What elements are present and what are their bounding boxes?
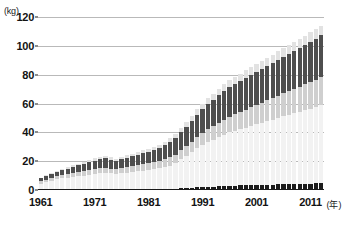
bar-segment-series-2-2004 xyxy=(271,120,275,185)
bar-segment-series-3-2011 xyxy=(308,82,312,109)
bar-segment-series-2-1984 xyxy=(163,167,167,190)
bar-segment-series-2-2009 xyxy=(298,112,302,184)
bar-1971 xyxy=(93,158,97,190)
bar-1994 xyxy=(217,89,221,190)
bar-segment-series-4-1989 xyxy=(190,121,194,142)
bar-segment-series-4-1984 xyxy=(163,145,167,159)
bar-segment-series-3-1986 xyxy=(173,155,177,164)
bar-segment-series-4-1970 xyxy=(87,162,91,170)
y-axis-unit-label: (kg) xyxy=(4,6,19,16)
bar-segment-series-2-2002 xyxy=(260,123,264,185)
bar-1989 xyxy=(190,116,194,190)
bar-segment-series-4-1999 xyxy=(244,78,248,110)
bar-1993 xyxy=(211,94,215,190)
bar-segment-series-4-1987 xyxy=(179,132,183,150)
bar-segment-series-4-1976 xyxy=(119,159,123,168)
x-axis-unit-label: (年) xyxy=(327,198,342,211)
bar-segment-series-2-2007 xyxy=(287,115,291,184)
bar-segment-series-2-1997 xyxy=(233,131,237,186)
bar-segment-series-3-1992 xyxy=(206,129,210,142)
bar-segment-series-2-1980 xyxy=(141,171,145,190)
bar-segment-series-5-2000 xyxy=(249,67,253,75)
stacked-bar-chart: (kg) 020406080100120 1961197119811991200… xyxy=(0,0,344,226)
x-tick-label-2001: 2001 xyxy=(245,196,268,208)
bar-segment-series-4-1982 xyxy=(152,150,156,162)
bar-1987 xyxy=(179,128,183,190)
bar-segment-series-3-2003 xyxy=(265,100,269,121)
bar-segment-series-2-1996 xyxy=(227,132,231,185)
bar-segment-series-3-2013 xyxy=(319,77,323,105)
bar-1972 xyxy=(98,157,102,190)
bar-segment-series-2-2005 xyxy=(276,118,280,184)
bar-segment-series-4-1991 xyxy=(200,109,204,133)
bar-segment-series-2-1973 xyxy=(103,173,107,190)
bar-1970 xyxy=(87,160,91,190)
x-tick-label-1981: 1981 xyxy=(137,196,160,208)
bar-segment-series-2-1993 xyxy=(211,140,215,187)
bar-segment-series-3-1999 xyxy=(244,110,248,128)
bar-segment-series-5-2002 xyxy=(260,61,264,69)
bar-2005 xyxy=(276,51,280,190)
bar-segment-series-5-2007 xyxy=(287,45,291,54)
bars-layer xyxy=(38,17,324,190)
bar-segment-series-3-1995 xyxy=(222,120,226,135)
bar-segment-series-4-2012 xyxy=(314,39,318,80)
bar-segment-series-3-1982 xyxy=(152,162,156,169)
bar-1978 xyxy=(130,154,134,190)
bar-1974 xyxy=(109,157,113,190)
bar-segment-series-4-2003 xyxy=(265,66,269,101)
bar-segment-series-2-1989 xyxy=(190,152,194,187)
bar-segment-series-4-1969 xyxy=(82,164,86,171)
bar-segment-series-2-1992 xyxy=(206,142,210,187)
bar-segment-series-4-1975 xyxy=(114,161,118,170)
bar-segment-series-4-1977 xyxy=(125,158,129,168)
bar-segment-series-5-2001 xyxy=(254,64,258,72)
bar-2012 xyxy=(314,29,318,190)
bar-segment-series-4-1983 xyxy=(157,148,161,161)
bar-segment-series-5-1999 xyxy=(244,70,248,77)
bar-1963 xyxy=(49,173,53,190)
x-tick-label-1961: 1961 xyxy=(29,196,52,208)
plot-area xyxy=(38,17,324,190)
bar-segment-series-3-2005 xyxy=(276,96,280,118)
bar-segment-series-5-2011 xyxy=(308,32,312,41)
bar-1983 xyxy=(157,145,161,190)
bar-1985 xyxy=(168,138,172,190)
bar-1991 xyxy=(200,104,204,190)
bar-segment-series-5-2003 xyxy=(265,58,269,66)
bar-2000 xyxy=(249,67,253,190)
bar-segment-series-3-1990 xyxy=(195,137,199,149)
bar-segment-series-3-2001 xyxy=(254,105,258,124)
bar-segment-series-2-1985 xyxy=(168,166,172,191)
bar-segment-series-4-2001 xyxy=(254,72,258,105)
bar-segment-series-2-1983 xyxy=(157,168,161,190)
y-tick-label-20: 20 xyxy=(0,155,34,167)
bar-segment-series-3-2012 xyxy=(314,80,318,107)
bar-1986 xyxy=(173,134,177,190)
bar-segment-series-4-1997 xyxy=(233,84,237,114)
bar-2001 xyxy=(254,64,258,190)
bar-segment-series-2-1974 xyxy=(109,173,113,190)
bar-segment-series-4-1979 xyxy=(136,155,140,166)
bar-segment-series-2-2003 xyxy=(265,121,269,184)
bar-2007 xyxy=(287,45,291,190)
bar-2008 xyxy=(292,42,296,190)
bar-segment-series-4-1995 xyxy=(222,91,226,120)
bar-segment-series-3-1988 xyxy=(184,146,188,156)
bar-2009 xyxy=(298,39,302,190)
x-tick-label-2011: 2011 xyxy=(299,196,322,208)
bar-segment-series-4-2011 xyxy=(308,42,312,82)
bar-1969 xyxy=(82,162,86,190)
bar-1990 xyxy=(195,109,199,190)
bar-segment-series-4-2007 xyxy=(287,54,291,91)
bar-segment-series-4-2005 xyxy=(276,60,280,96)
bar-segment-series-5-2013 xyxy=(319,26,323,36)
bar-segment-series-4-2008 xyxy=(292,51,296,89)
bar-1995 xyxy=(222,84,226,190)
bar-segment-series-2-2012 xyxy=(314,107,318,183)
bar-segment-series-2-1982 xyxy=(152,169,156,190)
bar-segment-series-2-1994 xyxy=(217,137,221,186)
bar-segment-series-3-2009 xyxy=(298,87,302,112)
bar-1984 xyxy=(163,142,167,190)
bar-segment-series-4-2009 xyxy=(298,48,302,87)
